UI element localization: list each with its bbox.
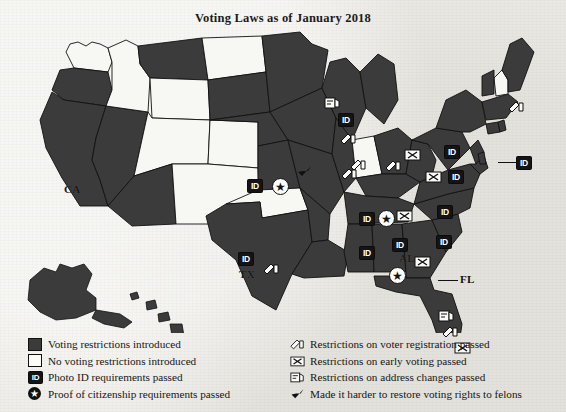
marker-felon-ia [297,165,312,178]
marker-registration-wi [340,132,357,145]
legend-label-voter-registration: Restrictions on voter registration passe… [310,338,490,350]
state-label-ca: CA [64,183,81,195]
state-vt [482,70,494,96]
marker-id-va: ID [444,145,460,159]
fl-leader-line [438,280,458,281]
state-mt [138,38,208,80]
state-de [478,152,486,164]
legend-right-column: Restrictions on voter registration passe… [290,336,522,402]
state-mi [360,54,398,124]
filled-square-swatch [28,338,48,351]
marker-id-ms: ID [359,246,375,260]
state-hi-1 [130,292,139,300]
legend-item-citizenship: ★ Proof of citizenship requirements pass… [28,386,230,403]
legend-item-address-changes: Restrictions on address changes passed [290,369,522,386]
state-ak [28,264,96,320]
state-label-al: AL [399,252,415,264]
state-ky [356,174,420,198]
address-change-icon [290,371,310,383]
marker-id-wi: ID [338,113,354,127]
legend-item-voter-registration: Restrictions on voter registration passe… [290,336,522,353]
marker-id-ks: ID [247,179,263,193]
early-voting-ballot-icon [290,355,310,367]
marker-earlyvoting-wv [425,170,442,183]
legend-label-citizenship: Proof of citizenship requirements passed [48,388,230,400]
legend-label-address-changes: Restrictions on address changes passed [310,371,485,383]
legend-label-felon-rights: Made it harder to restore voting rights … [310,388,522,400]
marker-id-nc: ID [437,205,453,219]
marker-earlyvoting-ga [414,255,431,268]
page-title: Voting Laws as of January 2018 [0,11,566,26]
legend-item-felon-rights: Made it harder to restore voting rights … [290,386,522,403]
state-ct [486,122,500,134]
ri-leader-line [498,162,516,163]
legend-label-early-voting: Restrictions on early voting passed [310,355,467,367]
marker-registration-me [508,100,525,113]
state-hi-2 [146,300,157,310]
legend-item-no-restrictions: No voting restrictions introduced [28,353,230,370]
legend-item-early-voting: Restrictions on early voting passed [290,353,522,370]
state-hi-3 [158,312,170,322]
legend: Voting restrictions introduced No voting… [0,336,566,412]
marker-id-tn: ID [359,212,375,226]
state-hi-4 [170,324,184,333]
legend-left-column: Voting restrictions introduced No voting… [28,336,230,402]
marker-earlyvoting-oh [404,148,421,161]
legend-label-photo-id: Photo ID requirements passed [48,371,183,383]
marker-star-ks: ★ [272,178,289,195]
state-label-tx: TX [239,268,255,280]
voter-registration-icon [290,338,310,350]
us-map: CA TX AL FL ID ID ID ID ID ID ID ID ID I… [0,28,566,333]
state-wa [66,42,112,72]
marker-star-al: ★ [389,267,406,284]
state-tx [206,202,312,310]
marker-id-tx: ID [238,252,254,266]
marker-earlyvoting-tn [396,209,413,222]
state-ak-tail [92,310,132,328]
photo-id-badge-icon: ID [28,371,48,384]
star-circle-icon: ★ [28,387,48,400]
marker-star-tn: ★ [378,210,395,227]
marker-address-wi [324,96,341,109]
legend-item-photo-id: ID Photo ID requirements passed [28,369,230,386]
marker-id-al: ID [392,238,408,252]
state-co [208,120,258,168]
legend-label-no-restrictions: No voting restrictions introduced [48,355,196,367]
marker-address-fl [438,309,455,322]
marker-id-sc: ID [436,235,452,249]
marker-id-pa: ID [448,170,464,184]
legend-item-restrictions: Voting restrictions introduced [28,336,230,353]
marker-registration-in [350,158,367,171]
state-wy [150,78,210,120]
marker-registration-oh [385,159,402,172]
marker-id-ri: ID [516,156,532,170]
empty-square-swatch [28,354,48,367]
felon-rights-arrow-icon [290,388,310,400]
state-ri [498,120,506,132]
state-label-fl: FL [460,273,475,285]
state-ny [436,90,486,132]
page-background: Voting Laws as of January 2018 [0,0,566,412]
legend-label-restrictions: Voting restrictions introduced [48,338,181,350]
marker-registration-tx [263,262,280,275]
